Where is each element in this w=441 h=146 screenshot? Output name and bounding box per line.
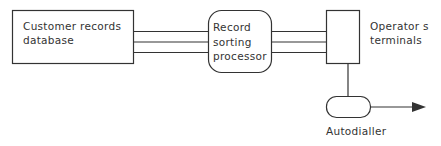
processor-to-terminals-connector <box>272 32 326 53</box>
database-label: Customer records <box>23 20 121 32</box>
autodialler-box <box>327 97 371 118</box>
processor-label-line3: processor <box>213 50 267 62</box>
arrow-right-icon <box>412 102 426 112</box>
system-diagram: Customer records database Record sorting… <box>0 0 441 146</box>
terminals-box <box>327 11 360 64</box>
terminals-label-line2: terminals <box>370 34 422 46</box>
autodialler-label: Autodialler <box>326 125 387 137</box>
processor-label-line1: Record <box>213 21 251 33</box>
terminals-label-line1: Operator s <box>370 20 429 32</box>
db-to-processor-connector <box>133 32 208 53</box>
database-label-line2: database <box>23 34 74 46</box>
processor-label-line2: sorting <box>213 36 252 48</box>
